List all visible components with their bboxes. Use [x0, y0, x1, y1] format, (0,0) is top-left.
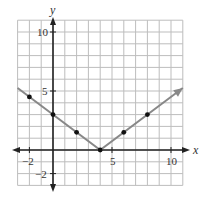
x-tick-label: 5	[110, 155, 116, 167]
data-point	[74, 130, 79, 135]
arrow-down-icon	[50, 184, 56, 192]
data-point	[98, 148, 103, 153]
arrow-right-icon	[182, 147, 190, 153]
graph: x y −2 5 10 10 5 −2	[0, 0, 207, 205]
y-tick-label: 10	[37, 26, 49, 38]
data-point	[27, 95, 32, 100]
arrow-left-icon	[12, 147, 20, 153]
x-tick-label: −2	[22, 155, 34, 167]
x-axis-label: x	[192, 143, 199, 157]
data-point	[121, 130, 126, 135]
y-axis-label: y	[49, 3, 56, 17]
grid	[18, 20, 183, 185]
data-point	[51, 112, 56, 117]
y-tick-label: 5	[42, 85, 48, 97]
data-point	[145, 112, 150, 117]
y-tick-label: −2	[35, 168, 47, 180]
arrow-up-icon	[50, 17, 56, 25]
x-tick-label: 10	[166, 155, 178, 167]
